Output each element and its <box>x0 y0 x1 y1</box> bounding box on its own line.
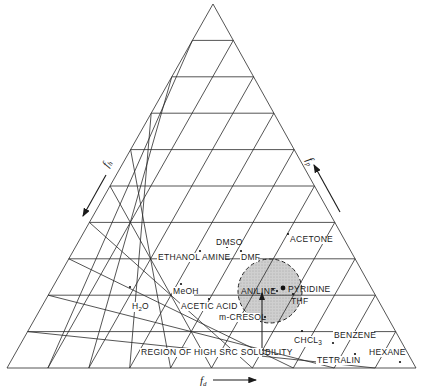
fp-axis-arrow <box>314 165 340 212</box>
tetralin-label: TETRALIN <box>317 355 361 365</box>
dmso-label: DMSO <box>216 237 243 247</box>
ternary-diagram: fh fp fd <box>0 0 424 388</box>
acetic-acid-label: ACETIC ACID <box>181 301 238 311</box>
fh-axis-label: fh <box>99 157 115 170</box>
acetone-point <box>287 233 289 235</box>
m-cresol-label: m-CRESOL <box>219 312 266 322</box>
acetone-label: ACETONE <box>290 234 333 244</box>
fd-axis-label: fd <box>200 374 207 388</box>
fh-axis-arrow <box>83 175 106 216</box>
pyridine-label: PYRIDINE <box>288 284 331 294</box>
benzene-label: BENZENE <box>334 330 376 340</box>
grid-line <box>130 113 274 368</box>
dmf-label: DMF <box>241 252 260 262</box>
thf-label: THF <box>291 296 308 306</box>
h2o-point <box>129 286 131 288</box>
aniline-label: ANILINE <box>241 286 276 296</box>
meoh-point <box>180 283 182 285</box>
chcl3-label: CHCL3 <box>294 335 322 346</box>
meoh-label: MeOH <box>173 286 199 296</box>
hexane-point <box>399 361 401 363</box>
grid-line <box>293 259 355 368</box>
pyridine-point <box>281 286 286 291</box>
ternary-grid <box>7 4 416 368</box>
aniline-point-2 <box>276 290 278 292</box>
grid-line <box>110 186 212 368</box>
acetic-acid-point <box>208 298 210 300</box>
ethanol-amine-label: ETHANOL AMINE <box>158 252 231 262</box>
fp-axis-label: fp <box>303 155 319 168</box>
chcl3-point <box>301 330 303 332</box>
hexane-label: HEXANE <box>369 347 406 357</box>
benzene-point <box>332 342 334 344</box>
region-label: REGION OF HIGH SRC SOLUBILITY <box>141 347 293 357</box>
